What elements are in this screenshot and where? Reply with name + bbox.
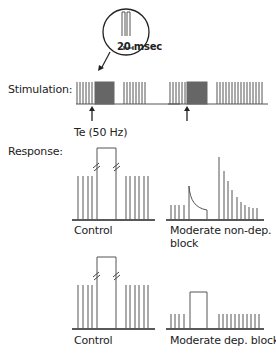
caption-control-bottom: Control (74, 334, 112, 347)
stim-train-left (76, 82, 180, 104)
response-control-bottom (72, 257, 155, 329)
stimulation-label: Stimulation: (8, 83, 72, 96)
caption-moderate-nondep-line2: block (170, 237, 198, 250)
caption-control-top: Control (74, 224, 112, 237)
neuromuscular-block-diagram (0, 0, 276, 356)
inset-scale-label: 20 msec (117, 41, 162, 52)
caption-moderate-dep: Moderate dep. block (170, 334, 276, 347)
tetanus-label: Te (50 Hz) (74, 126, 127, 139)
response-moderate-nondep (166, 157, 264, 220)
response-label: Response: (8, 145, 63, 158)
caption-moderate-nondep-line1: Moderate non-dep. (170, 224, 271, 237)
inset-pointer-arrow (101, 52, 110, 69)
response-control-top (72, 148, 155, 220)
response-moderate-dep (166, 292, 264, 329)
inset-pulses (122, 12, 130, 36)
stim-train-right (168, 82, 268, 104)
